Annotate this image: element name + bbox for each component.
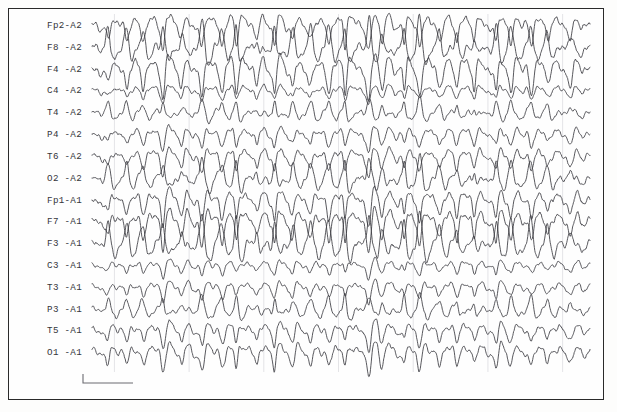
eeg-trace-p3-a1	[92, 292, 590, 320]
eeg-trace-p4-a2	[92, 124, 590, 152]
calibration-bar	[83, 374, 133, 383]
gridlines	[114, 14, 562, 372]
eeg-trace-t4-a2	[92, 95, 590, 124]
eeg-trace-fp1-a1	[92, 186, 590, 228]
eeg-trace-canvas	[0, 0, 617, 412]
eeg-traces	[92, 13, 590, 377]
eeg-trace-t6-a2	[92, 146, 590, 178]
eeg-trace-f4-a2	[92, 53, 590, 101]
calibration-marker	[83, 374, 133, 383]
eeg-trace-o1-a1	[92, 341, 590, 377]
eeg-trace-t3-a1	[92, 279, 590, 305]
eeg-trace-c3-a1	[92, 257, 590, 280]
eeg-figure: Fp2-A2F8 -A2F4 -A2C4 -A2T4 -A2P4 -A2T6 -…	[0, 0, 617, 412]
eeg-trace-c4-a2	[92, 84, 590, 105]
eeg-trace-o2-a2	[92, 153, 590, 194]
